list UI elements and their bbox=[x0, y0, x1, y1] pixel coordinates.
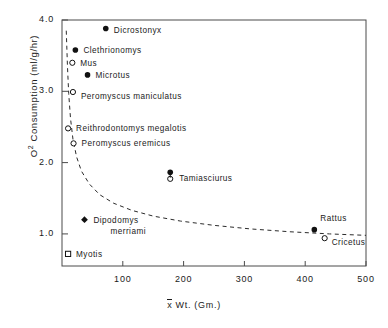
x-tick-label: 500 bbox=[352, 274, 380, 284]
data-point-label: Peromyscus eremicus bbox=[82, 139, 171, 148]
marker-open-circle bbox=[65, 126, 70, 131]
data-point-label: Tamiasciurus bbox=[179, 174, 232, 183]
x-axis-label-xbar: x bbox=[167, 300, 172, 310]
x-tick-label: 100 bbox=[109, 274, 137, 284]
y-axis-label-rest: Consumption (ml/g/hr) bbox=[28, 35, 39, 145]
marker-open-circle bbox=[71, 141, 76, 146]
x-tick-label: 200 bbox=[170, 274, 198, 284]
marker-filled-diamond bbox=[81, 216, 88, 223]
marker-filled-circle bbox=[73, 47, 79, 53]
data-point-label: Rattus bbox=[320, 214, 346, 223]
x-tick-label: 300 bbox=[230, 274, 258, 284]
data-point-label: Dipodomys bbox=[93, 216, 138, 225]
x-axis-label: x Wt. (Gm.) bbox=[0, 300, 388, 310]
data-point-label: Reithrodontomys megalotis bbox=[76, 124, 186, 133]
marker-open-circle bbox=[322, 236, 327, 241]
data-point-label: Clethrionomys bbox=[83, 46, 141, 55]
data-point-label: Microtus bbox=[96, 71, 131, 80]
oxygen-consumption-scatter-chart: 1002003004005001.02.03.04.0 DicrostonyxC… bbox=[0, 0, 388, 328]
data-point-label: merriami bbox=[110, 227, 145, 236]
marker-filled-circle bbox=[312, 227, 318, 233]
y-axis-label-superscript: 2 bbox=[27, 145, 34, 150]
y-axis-label-base: O bbox=[28, 149, 39, 157]
y-tick-label: 1.0 bbox=[24, 228, 54, 238]
data-point-label: Mus bbox=[80, 59, 97, 68]
x-axis-label-rest: Wt. (Gm.) bbox=[172, 300, 221, 310]
data-point-label: Cricetus bbox=[332, 238, 366, 247]
data-point-label: Dicrostonyx bbox=[114, 26, 162, 35]
x-tick-label: 400 bbox=[291, 274, 319, 284]
data-point-label: Myotis bbox=[76, 250, 102, 259]
marker-filled-circle bbox=[85, 72, 91, 78]
marker-open-circle bbox=[70, 89, 75, 94]
marker-open-square bbox=[65, 251, 70, 256]
data-point-label: Peromyscus maniculatus bbox=[81, 92, 182, 101]
y-axis-label: O2 Consumption (ml/g/hr) bbox=[27, 11, 39, 181]
marker-open-circle bbox=[70, 60, 75, 65]
marker-filled-circle bbox=[103, 26, 109, 32]
